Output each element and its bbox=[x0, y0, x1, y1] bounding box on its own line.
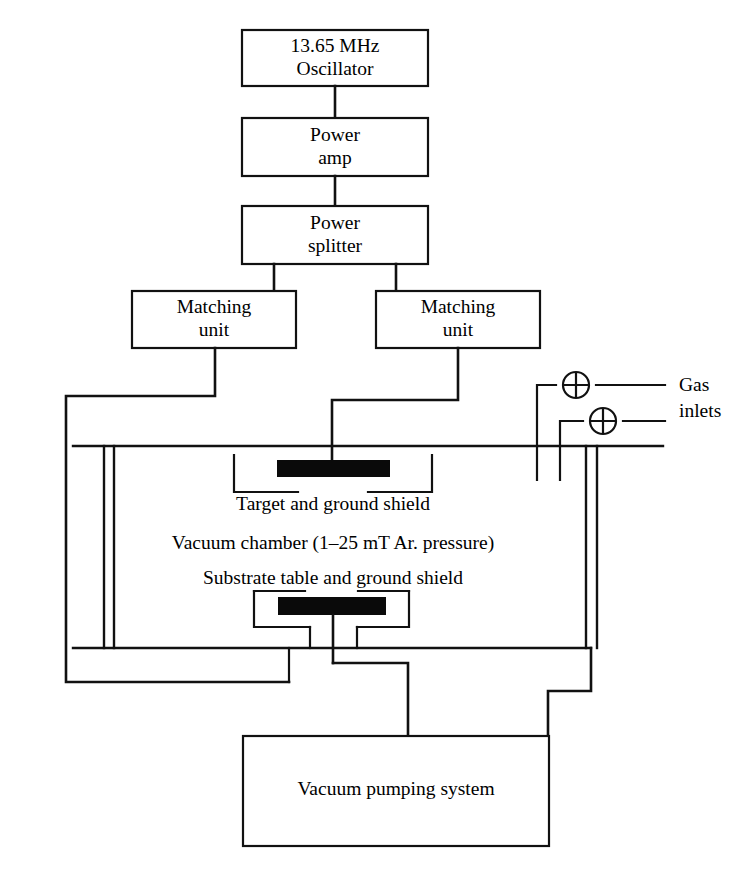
gas-inlet-upper-pipe bbox=[537, 385, 556, 480]
power-amp-label-line2: amp bbox=[318, 147, 352, 168]
power-splitter-label-line1: Power bbox=[310, 212, 360, 233]
block-power-amp: Power amp bbox=[242, 118, 428, 176]
matching-unit-right-label-line1: Matching bbox=[421, 296, 496, 317]
vacuum-chamber-label: Vacuum chamber (1–25 mT Ar. pressure) bbox=[172, 532, 494, 554]
substrate-table-electrode bbox=[278, 597, 386, 615]
target-electrode bbox=[277, 460, 390, 477]
substrate-ground-shield-label: Substrate table and ground shield bbox=[203, 567, 463, 588]
matching-unit-right-label-line2: unit bbox=[443, 319, 474, 340]
wire-chamber-to-pump-right bbox=[548, 648, 591, 736]
wire-substrate-to-pump-left bbox=[333, 663, 408, 736]
matching-unit-left-label-line1: Matching bbox=[177, 296, 252, 317]
gas-inlet-lower-pipe bbox=[560, 421, 583, 480]
oscillator-label-line2: Oscillator bbox=[297, 58, 374, 79]
block-oscillator: 13.65 MHz Oscillator bbox=[242, 30, 428, 86]
block-matching-unit-right: Matching unit bbox=[376, 291, 540, 348]
vacuum-pump-label: Vacuum pumping system bbox=[297, 778, 494, 799]
schematic-canvas: 13.65 MHz Oscillator Power amp Power spl… bbox=[0, 0, 749, 878]
block-power-splitter: Power splitter bbox=[242, 206, 428, 264]
target-ground-shield-label: Target and ground shield bbox=[236, 493, 430, 514]
oscillator-label-line1: 13.65 MHz bbox=[291, 35, 380, 56]
gas-inlets-label-line2: inlets bbox=[679, 400, 721, 421]
sputtering-system-diagram: 13.65 MHz Oscillator Power amp Power spl… bbox=[0, 0, 749, 878]
block-matching-unit-left: Matching unit bbox=[132, 291, 296, 348]
power-splitter-label-line2: splitter bbox=[308, 235, 363, 256]
gas-inlets-label-line1: Gas bbox=[679, 374, 709, 395]
wire-matching-left-to-substrate bbox=[66, 348, 289, 682]
block-vacuum-pump: Vacuum pumping system bbox=[243, 736, 549, 846]
power-amp-label-line1: Power bbox=[310, 124, 360, 145]
matching-unit-left-label-line2: unit bbox=[199, 319, 230, 340]
